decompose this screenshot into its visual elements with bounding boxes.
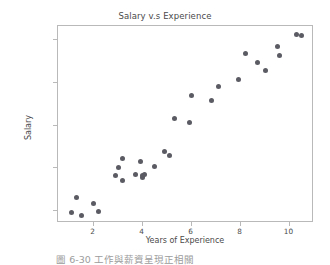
x-axis-tick-label: 4 — [139, 227, 144, 236]
scatter-point — [74, 195, 79, 200]
scatter-point — [162, 149, 167, 154]
scatter-point — [275, 44, 280, 49]
x-axis-tick-mark — [191, 222, 192, 226]
x-axis-tick-mark — [240, 222, 241, 226]
plot-area — [57, 25, 313, 222]
scatter-point — [263, 68, 268, 73]
scatter-point — [79, 213, 84, 218]
scatter-point — [69, 210, 74, 215]
x-axis-tick-label: 10 — [284, 227, 293, 236]
y-axis-label: Salary — [24, 98, 33, 158]
scatter-point — [116, 165, 121, 170]
x-axis-tick-label: 6 — [188, 227, 193, 236]
scatter-point — [216, 84, 221, 89]
scatter-point — [152, 164, 157, 169]
scatter-point — [172, 116, 177, 121]
scatter-point — [243, 51, 248, 56]
x-axis-tick-mark — [93, 222, 94, 226]
y-axis-tick-mark — [53, 167, 57, 168]
scatter-point — [91, 201, 96, 206]
scatter-point — [138, 159, 143, 164]
scatter-point — [120, 156, 125, 161]
x-axis-label: Years of Experience — [57, 236, 313, 245]
scatter-point — [277, 53, 282, 58]
scatter-point — [189, 93, 194, 98]
x-axis-tick-mark — [289, 222, 290, 226]
scatter-point — [120, 178, 125, 183]
scatter-point — [133, 172, 138, 177]
scatter-point — [113, 173, 118, 178]
y-axis-tick-mark — [53, 39, 57, 40]
scatter-point — [142, 172, 147, 177]
y-axis-tick-mark — [53, 125, 57, 126]
scatter-point — [299, 33, 304, 38]
scatter-point — [96, 209, 101, 214]
y-axis-tick-mark — [53, 210, 57, 211]
figure-caption: 圖 6-30 工作與薪資呈現正相關 — [0, 252, 250, 265]
scatter-point — [236, 77, 241, 82]
y-axis-tick-mark — [53, 82, 57, 83]
scatter-point — [167, 153, 172, 158]
page-title: Salary v.s Experience — [0, 11, 330, 21]
scatter-point — [187, 120, 192, 125]
scatter-plot-figure: Salary v.s Experience Salary Years of Ex… — [0, 0, 330, 265]
scatter-point — [255, 60, 260, 65]
x-axis-tick-label: 8 — [237, 227, 242, 236]
x-axis-tick-mark — [142, 222, 143, 226]
x-axis-tick-label: 2 — [90, 227, 95, 236]
scatter-point — [209, 98, 214, 103]
